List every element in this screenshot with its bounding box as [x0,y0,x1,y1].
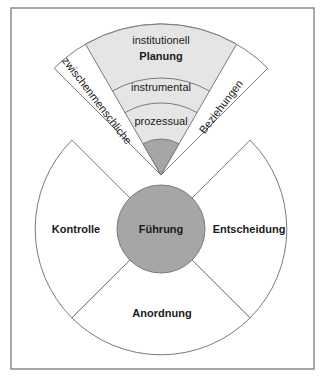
right-label: Entscheidung [213,223,286,235]
left-label: Kontrolle [52,223,100,235]
planning-title: Planung [139,50,182,62]
bottom-label: Anordnung [132,307,191,319]
leadership-diagram: institutionell Planung instrumental proz… [0,0,324,378]
level-prozessual: prozessual [134,115,187,127]
level-institutionell: institutionell [132,34,189,46]
level-instrumental: instrumental [131,81,191,93]
center-label: Führung [139,223,184,235]
